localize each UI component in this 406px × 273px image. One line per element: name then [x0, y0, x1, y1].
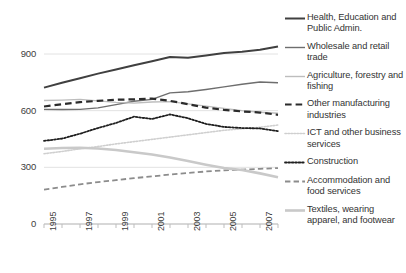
legend-item-label: ICT and other business services — [307, 127, 406, 150]
legend-item[interactable]: ICT and other business services — [284, 127, 406, 150]
dashed-line-gray-icon — [284, 175, 306, 188]
legend-item[interactable]: Construction — [284, 156, 406, 169]
chart-container: 0300600900 1995199719992001200320052007 … — [0, 0, 406, 273]
y-axis-tick-label: 0 — [2, 218, 36, 229]
legend-item-label: Other manufacturing industries — [307, 98, 406, 121]
y-axis-tick-label: 300 — [2, 161, 36, 172]
x-axis-tick-label: 1997 — [84, 212, 94, 231]
legend-item[interactable]: Agriculture, forestry and fishing — [284, 70, 406, 93]
legend-item-label: Accommodation and food services — [307, 175, 406, 198]
series-line — [44, 82, 278, 110]
legend-item[interactable]: Accommodation and food services — [284, 175, 406, 198]
x-axis-tick-label: 2001 — [156, 212, 166, 231]
legend-item[interactable]: Health, Education and Public Admin. — [284, 12, 406, 35]
dotted-line-lightgray-icon — [284, 127, 306, 140]
legend-item-label: Wholesale and retail trade — [307, 41, 406, 64]
series-line — [44, 148, 278, 177]
dashed-line-dark-icon — [284, 98, 306, 111]
legend-item[interactable]: Textiles, wearing apparel, and footwear — [284, 204, 406, 227]
dotted-line-dark-icon — [284, 156, 306, 169]
x-axis-tick-label: 2003 — [192, 212, 202, 231]
solid-line-dark-icon — [284, 12, 306, 25]
plot-svg — [0, 0, 282, 273]
solid-line-gray-icon — [284, 41, 306, 54]
solid-line-lightgray-icon — [284, 70, 306, 83]
legend-item-label: Agriculture, forestry and fishing — [307, 70, 406, 93]
solid-line-thick-lightgray-icon — [284, 204, 306, 217]
legend-item-label: Health, Education and Public Admin. — [307, 12, 406, 35]
legend-item-label: Construction — [307, 156, 358, 167]
series-line — [44, 99, 278, 115]
x-axis-tick-label: 2007 — [264, 212, 274, 231]
legend-item-label: Textiles, wearing apparel, and footwear — [307, 204, 406, 227]
x-axis-tick-label: 1999 — [120, 212, 130, 231]
legend-item[interactable]: Other manufacturing industries — [284, 98, 406, 121]
series-line — [44, 46, 278, 87]
chart-legend: Health, Education and Public Admin.Whole… — [282, 0, 406, 273]
series-line — [44, 114, 278, 140]
series-line — [44, 125, 278, 154]
legend-item[interactable]: Wholesale and retail trade — [284, 41, 406, 64]
x-axis-tick-label: 2005 — [228, 212, 238, 231]
x-axis-tick-label: 1995 — [48, 212, 58, 231]
y-axis-tick-label: 900 — [2, 48, 36, 59]
y-axis-tick-label: 600 — [2, 105, 36, 116]
plot-area: 0300600900 1995199719992001200320052007 — [0, 0, 282, 273]
